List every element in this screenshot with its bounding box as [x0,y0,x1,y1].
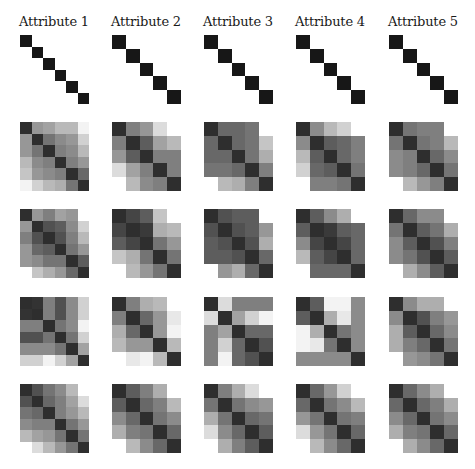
heatmap-cell [66,267,78,279]
heatmap-cell [20,419,32,431]
heatmap-cell [310,49,324,63]
heatmap-cell [232,223,246,237]
heatmap-cell [32,209,44,221]
heatmap-cell [43,267,55,279]
heatmap-cell [78,35,90,47]
heatmap-cell [126,163,140,177]
heatmap-cell [43,255,55,267]
heatmap-cell [310,338,324,352]
heatmap-cell [296,150,310,164]
heatmap-cell [232,384,246,398]
heatmap-cell [389,311,403,325]
heatmap-cell [20,93,32,105]
heatmap-cell [43,221,55,233]
heatmap-cell [417,237,431,251]
heatmap-cell [153,63,167,77]
heatmap-cell [112,297,126,311]
heatmap-cell [140,439,154,453]
heatmap-cell [389,223,403,237]
heatmap-cell [78,232,90,244]
heatmap-cell [232,76,246,90]
heatmap-cell [32,309,44,321]
heatmap-cell [20,47,32,59]
heatmap-cell [20,309,32,321]
heatmap-cell [20,81,32,93]
heatmap-cell [351,412,365,426]
heatmap-cell [66,168,78,180]
heatmap-cell [112,398,126,412]
heatmap-cell [55,267,67,279]
heatmap-cell [43,309,55,321]
heatmap-cell [337,352,351,366]
heatmap-cell [417,136,431,150]
heatmap-cell [20,70,32,82]
heatmap-cell [204,338,218,352]
heatmap-cell [430,223,444,237]
heatmap-cell [55,419,67,431]
heatmap-cell [153,325,167,339]
heatmap-cell [167,177,181,191]
heatmap-cell [32,430,44,442]
heatmap-cell [417,49,431,63]
heatmap-cell [324,398,338,412]
heatmap-cell [78,221,90,233]
heatmap-cell [153,412,167,426]
heatmap-cell [55,157,67,169]
heatmap-cell [324,49,338,63]
heatmap-cell [296,35,310,49]
heatmap-cell [351,150,365,164]
heatmap-cell [417,439,431,453]
heatmap-cell [32,47,44,59]
heatmap-cell [337,237,351,251]
heatmap-cell [245,49,259,63]
heatmap-cell [245,412,259,426]
heatmap-cell [218,250,232,264]
heatmap-cell [32,297,44,309]
heatmap-cell [296,90,310,104]
heatmap-cell [55,221,67,233]
heatmap-cell [167,425,181,439]
heatmap-cell [167,49,181,63]
heatmap-cell [43,168,55,180]
heatmap-cell [259,177,273,191]
heatmap-cell [204,136,218,150]
heatmap-cell [296,76,310,90]
heatmap-cell [153,384,167,398]
heatmap-row-5-attribute-5 [389,384,458,453]
heatmap-cell [78,355,90,367]
heatmap-cell [218,425,232,439]
heatmap-cell [218,63,232,77]
heatmap-cell [389,122,403,136]
heatmap-cell [43,209,55,221]
heatmap-cell [153,311,167,325]
heatmap-cell [126,49,140,63]
heatmap-cell [245,352,259,366]
heatmap-cell [112,325,126,339]
heatmap-cell [167,325,181,339]
heatmap-cell [204,49,218,63]
heatmap-cell [430,76,444,90]
heatmap-cell [153,35,167,49]
heatmap-cell [310,412,324,426]
heatmap-cell [20,134,32,146]
heatmap-cell [112,163,126,177]
heatmap-cell [78,157,90,169]
heatmap-cell [337,35,351,49]
heatmap-cell [32,70,44,82]
heatmap-cell [310,325,324,339]
heatmap-cell [351,63,365,77]
heatmap-cell [296,338,310,352]
heatmap-row-5-attribute-2 [112,384,181,453]
heatmap-cell [126,297,140,311]
heatmap-cell [259,163,273,177]
heatmap-cell [167,297,181,311]
heatmap-cell [444,352,458,366]
heatmap-cell [43,297,55,309]
heatmap-cell [417,63,431,77]
heatmap-cell [430,250,444,264]
heatmap-cell [167,338,181,352]
heatmap-cell [324,425,338,439]
heatmap-cell [112,90,126,104]
heatmap-cell [337,264,351,278]
heatmap-cell [140,297,154,311]
